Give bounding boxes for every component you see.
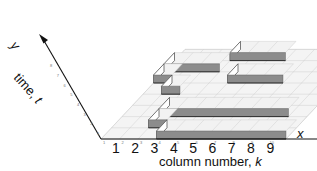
x-small-tick: 3 bbox=[140, 140, 142, 145]
x-big-tick: 4 bbox=[170, 140, 178, 156]
y-axis-arrowhead bbox=[39, 34, 48, 44]
block-top bbox=[157, 120, 297, 131]
x-big-tick: 5 bbox=[189, 140, 197, 156]
x-big-tick: 9 bbox=[266, 140, 274, 156]
block-front bbox=[230, 53, 286, 61]
y-small-tick: 5 bbox=[70, 92, 72, 97]
block-front bbox=[157, 131, 287, 139]
y-small-tick: 7 bbox=[57, 73, 59, 78]
y-small-tick: 8 bbox=[50, 63, 52, 68]
y-small-tick: 4 bbox=[77, 102, 79, 107]
x-small-tick: 2 bbox=[122, 140, 124, 145]
x-small-tick: 1 bbox=[103, 140, 105, 145]
block-front bbox=[162, 86, 181, 94]
x-big-tick: 3 bbox=[151, 140, 159, 156]
y-small-tick: 1 bbox=[97, 131, 99, 136]
x-big-tick: 7 bbox=[228, 140, 236, 156]
x-axis-title: column number, k bbox=[159, 154, 262, 169]
block-diagram: y time, t x column number, k 12345678910… bbox=[0, 0, 317, 171]
x-axis-title-text: column number, bbox=[159, 154, 252, 169]
block-front bbox=[228, 75, 284, 83]
x-big-tick: 1 bbox=[112, 140, 120, 156]
y-small-tick: 6 bbox=[64, 83, 66, 88]
block-top bbox=[159, 97, 299, 108]
x-big-tick: 6 bbox=[209, 140, 217, 156]
y-small-tick: 2 bbox=[90, 121, 92, 126]
x-small-tick: 4 bbox=[159, 140, 161, 145]
y-small-tick: 3 bbox=[84, 112, 86, 117]
x-axis-title-var: k bbox=[255, 154, 262, 169]
x-axis-arrow-label: x bbox=[297, 126, 304, 141]
x-big-tick: 8 bbox=[247, 140, 255, 156]
x-big-tick: 2 bbox=[131, 140, 139, 156]
block-front bbox=[159, 109, 289, 117]
